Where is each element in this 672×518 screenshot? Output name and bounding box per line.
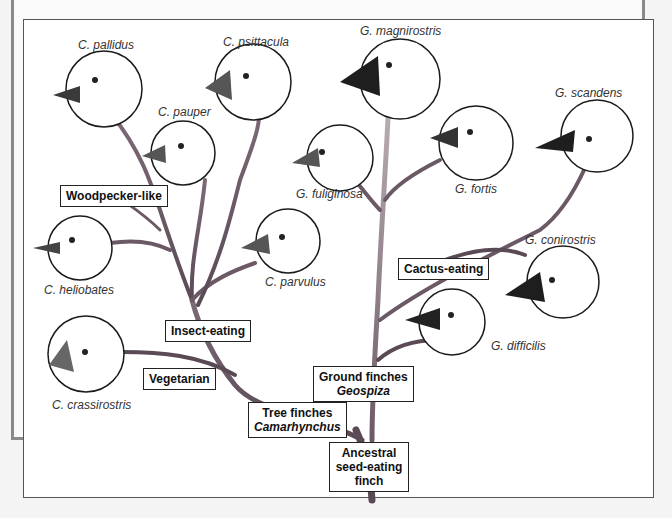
species-label: C. pauper xyxy=(158,105,211,119)
species-label: C. pallidus xyxy=(78,38,134,52)
group-title: Tree finches xyxy=(262,406,332,420)
label-woodpecker-like: Woodpecker-like xyxy=(60,185,168,207)
group-genus: Camarhynchus xyxy=(254,420,341,434)
group-genus: Geospiza xyxy=(319,384,408,398)
bird-g-fortis xyxy=(430,106,513,180)
species-label: G. conirostris xyxy=(525,233,596,247)
species-label: G. fortis xyxy=(455,182,497,196)
species-label: G. fuliginosa xyxy=(296,187,363,201)
bird-c-pauper xyxy=(142,121,215,185)
label-cactus-eating: Cactus-eating xyxy=(398,258,489,280)
label-insect-eating: Insect-eating xyxy=(165,320,251,342)
label-ground-finches: Ground finches Geospiza xyxy=(313,366,414,402)
root-line2: seed-eating xyxy=(334,460,404,474)
species-label: G. scandens xyxy=(555,86,622,100)
bird-g-fuliginosa xyxy=(292,125,373,191)
bird-c-pallidus xyxy=(53,51,142,127)
bird-g-magnirostris xyxy=(340,39,440,119)
label-vegetarian: Vegetarian xyxy=(143,368,216,390)
species-label: C. psittacula xyxy=(223,35,289,49)
root-line1: Ancestral xyxy=(334,446,404,460)
species-label: C. heliobates xyxy=(44,283,114,297)
bird-g-scandens xyxy=(535,100,633,172)
label-tree-finches: Tree finches Camarhynchus xyxy=(248,402,347,438)
bird-g-conirostris xyxy=(505,246,599,318)
phylogenetic-tree xyxy=(0,0,672,518)
species-label: C. parvulus xyxy=(265,275,326,289)
bird-g-difficilis xyxy=(405,289,485,355)
bird-c-heliobates xyxy=(33,216,112,280)
species-label: G. difficilis xyxy=(491,339,546,353)
species-label: G. magnirostris xyxy=(360,24,441,38)
bird-c-psittacula xyxy=(205,44,291,120)
species-label: C. crassirostris xyxy=(52,398,131,412)
group-title: Ground finches xyxy=(319,370,408,384)
bird-c-crassirostris xyxy=(48,316,124,392)
root-line3: finch xyxy=(334,474,404,488)
label-ancestral-finch: Ancestral seed-eating finch xyxy=(329,442,409,492)
